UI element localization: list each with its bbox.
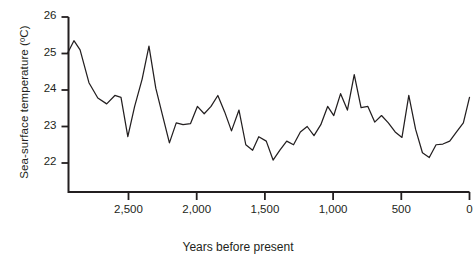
data-line-sea-surface-temperature — [68, 41, 470, 160]
axis-lines — [69, 17, 470, 192]
data-series-group — [68, 41, 470, 160]
chart-figure: Sea-surface temperature (ºC) Years befor… — [0, 0, 476, 268]
plot-area — [0, 0, 476, 268]
